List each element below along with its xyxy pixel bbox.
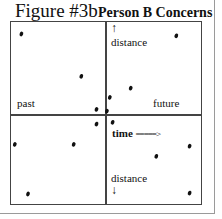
time-axis (11, 114, 201, 116)
figure-title: Figure #3b (15, 1, 98, 21)
right-arrow-icon: =====> (136, 129, 160, 139)
distance-axis (105, 22, 107, 204)
past-label: past (17, 97, 35, 109)
up-arrow-icon: ↑ (111, 22, 117, 34)
page-edge-bottom (0, 213, 215, 214)
time-label-text: time (112, 127, 133, 139)
down-arrow-icon: ↓ (111, 184, 117, 196)
time-label: time =====> (112, 127, 160, 140)
future-label: future (153, 97, 179, 109)
plot-frame (10, 21, 202, 205)
page-edge-right (214, 0, 215, 214)
figure-subtitle: Person B Concerns (98, 5, 212, 21)
top-distance-label: distance (111, 36, 147, 48)
